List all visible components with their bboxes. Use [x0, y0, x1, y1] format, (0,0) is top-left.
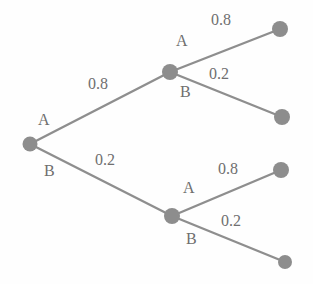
node-a — [162, 64, 178, 80]
probability-label-a-aa: 0.8 — [211, 12, 231, 28]
branch-label-a-ab: B — [180, 84, 191, 100]
probability-tree-figure: A 0.8 B 0.2 A 0.8 B 0.2 A 0.8 B 0.2 — [0, 0, 313, 284]
tree-diagram-canvas — [0, 0, 313, 284]
branch-label-b-bb: B — [186, 231, 197, 247]
probability-label-root-a: 0.8 — [88, 76, 108, 92]
leaf-aa — [272, 21, 288, 37]
probability-label-a-ab: 0.2 — [209, 66, 229, 82]
node-group — [23, 21, 293, 269]
root-node — [23, 137, 38, 152]
branch-label-a-aa: A — [176, 33, 188, 49]
branch-label-root-b: B — [44, 163, 55, 179]
node-b — [164, 208, 180, 224]
edge-group — [30, 29, 285, 262]
leaf-bb — [278, 255, 292, 269]
probability-label-root-b: 0.2 — [95, 152, 115, 168]
leaf-ab — [274, 109, 290, 125]
probability-label-b-bb: 0.2 — [221, 213, 241, 229]
branch-label-root-a: A — [38, 112, 50, 128]
probability-label-b-ba: 0.8 — [218, 161, 238, 177]
leaf-ba — [273, 162, 289, 178]
branch-label-b-ba: A — [183, 180, 195, 196]
